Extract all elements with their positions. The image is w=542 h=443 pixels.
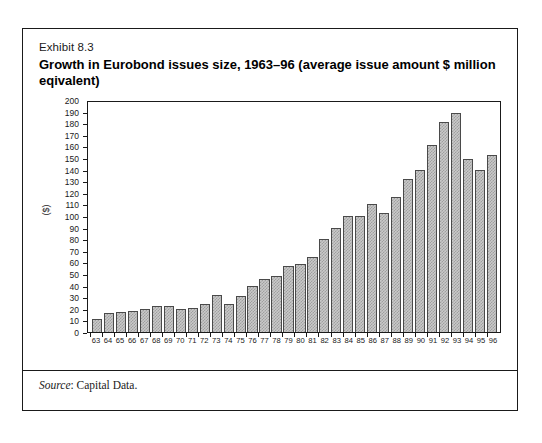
x-axis-tick-label: 63 (91, 335, 101, 351)
x-axis-tick-label: 85 (356, 335, 366, 351)
x-axis-tick-label: 87 (380, 335, 390, 351)
x-axis-tick-label: 73 (211, 335, 221, 351)
bar (176, 309, 186, 332)
bar (415, 170, 425, 332)
x-axis-tick-label: 71 (187, 335, 197, 351)
x-axis-tick-label: 81 (307, 335, 317, 351)
bar (140, 309, 150, 332)
x-axis-tick-label: 69 (163, 335, 173, 351)
bar (391, 197, 401, 332)
bar-series (88, 102, 500, 332)
x-axis-tick-label: 91 (428, 335, 438, 351)
x-axis-tick-label: 95 (476, 335, 486, 351)
bar (271, 276, 281, 332)
y-axis-tick-label: 140 (65, 167, 79, 176)
x-axis-tick-label: 93 (452, 335, 462, 351)
y-axis-tick-label: 100 (65, 213, 79, 222)
bar (224, 304, 234, 332)
y-axis-tick-label: 60 (70, 259, 79, 268)
bar (295, 264, 305, 332)
y-axis-tick-label: 200 (65, 97, 79, 106)
y-axis-tick-label: 20 (70, 306, 79, 315)
x-axis-tick-label: 92 (440, 335, 450, 351)
bar (188, 308, 198, 332)
x-axis-tick-label: 83 (332, 335, 342, 351)
y-axis-tick-label: 40 (70, 283, 79, 292)
x-axis-tick-label: 74 (223, 335, 233, 351)
bar (307, 257, 317, 332)
bar (283, 266, 293, 332)
y-axis-tick-label: 110 (65, 201, 79, 210)
y-axis-tick-label: 120 (65, 190, 79, 199)
x-axis-tick-label: 82 (319, 335, 329, 351)
bar (247, 286, 257, 332)
y-axis-tick-label: 130 (65, 178, 79, 187)
bar (236, 296, 246, 332)
y-axis-tick-label: 190 (65, 109, 79, 118)
source-value: : Capital Data. (71, 379, 138, 391)
y-axis-tick-label: 160 (65, 143, 79, 152)
exhibit-label: Exhibit 8.3 (39, 41, 94, 53)
bar (152, 306, 162, 332)
x-axis-tick-label: 67 (139, 335, 149, 351)
source-label: Source (39, 379, 71, 391)
y-axis-tick-label: 80 (70, 236, 79, 245)
x-axis-tick-label: 77 (259, 335, 269, 351)
chart-area: ($) 200190180170160150140130120110100908… (39, 101, 501, 363)
y-axis-tick-label: 150 (65, 155, 79, 164)
bar (104, 313, 114, 332)
x-axis-tick-label: 66 (127, 335, 137, 351)
bar (403, 179, 413, 332)
x-axis-tick-label: 90 (416, 335, 426, 351)
x-axis-tick-label: 79 (283, 335, 293, 351)
plot-wrapper: 2001901801701601501401301201101009080706… (57, 101, 501, 363)
x-axis-tick-label: 72 (199, 335, 209, 351)
bar (259, 279, 269, 332)
bar (379, 213, 389, 332)
source-note: Source: Capital Data. (39, 379, 137, 391)
y-axis-tick-label: 50 (70, 271, 79, 280)
x-axis-tick-label: 89 (404, 335, 414, 351)
bar (92, 319, 102, 332)
exhibit-frame: Exhibit 8.3 Growth in Eurobond issues si… (22, 28, 518, 411)
y-axis-ticks: 2001901801701601501401301201101009080706… (57, 101, 83, 333)
bar (439, 122, 449, 332)
bar (319, 239, 329, 332)
x-axis-tick-label: 70 (175, 335, 185, 351)
x-axis-tick-label: 64 (103, 335, 113, 351)
x-axis-tick-label: 88 (392, 335, 402, 351)
bar (200, 304, 210, 332)
bar (475, 170, 485, 332)
y-axis-tick-label: 70 (70, 248, 79, 257)
exhibit-title: Growth in Eurobond issues size, 1963–96 … (39, 57, 499, 88)
bar (116, 312, 126, 332)
plot-area (87, 101, 501, 333)
bar (164, 306, 174, 332)
x-axis-tick-label: 68 (151, 335, 161, 351)
bar (487, 155, 497, 332)
x-axis-tick-label: 84 (344, 335, 354, 351)
x-axis-tick-label: 86 (368, 335, 378, 351)
bar (367, 204, 377, 332)
x-axis-labels: 6364656667686970717273747576777879808182… (87, 335, 501, 351)
bar (451, 113, 461, 332)
source-divider (23, 370, 517, 371)
y-axis-tick-label: 180 (65, 120, 79, 129)
bar (427, 145, 437, 332)
y-axis-unit-label: ($) (41, 203, 51, 217)
x-axis-tick-label: 96 (488, 335, 498, 351)
x-axis-tick-label: 76 (247, 335, 257, 351)
x-axis-tick-label: 80 (295, 335, 305, 351)
bar (128, 311, 138, 332)
y-axis-tick-label: 10 (70, 317, 79, 326)
x-axis-tick-label: 65 (115, 335, 125, 351)
x-axis-tick-label: 75 (235, 335, 245, 351)
y-axis-tick-label: 90 (70, 225, 79, 234)
bar (212, 295, 222, 332)
y-axis-tick-label: 0 (74, 329, 79, 338)
bar (355, 216, 365, 332)
x-axis-tick-label: 94 (464, 335, 474, 351)
x-axis-tick-label: 78 (271, 335, 281, 351)
bar (331, 228, 341, 332)
bar (343, 216, 353, 332)
